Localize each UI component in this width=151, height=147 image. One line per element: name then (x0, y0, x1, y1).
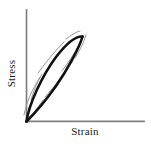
sketch-outline-upper-mid (38, 42, 64, 73)
x-axis-label: Strain (26, 126, 144, 137)
unloading-branch-curve (27, 37, 83, 122)
hysteresis-loop-group (27, 36, 83, 121)
sketch-outline-left-edge (31, 74, 42, 100)
y-axis-label: Stress (0, 0, 24, 147)
loading-branch-curve (27, 36, 83, 121)
sketch-outline-group (24, 31, 86, 120)
stress-strain-figure: Stress Strain (0, 0, 151, 147)
y-axis-label-text: Stress (7, 60, 18, 87)
